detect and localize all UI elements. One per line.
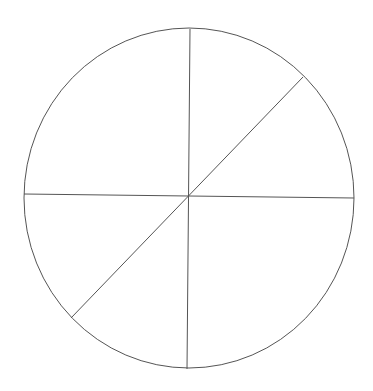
diagram-canvas (0, 0, 373, 391)
diagonal-divider (71, 77, 303, 318)
vertical-divider (187, 29, 190, 369)
divided-circle-diagram (0, 0, 373, 391)
